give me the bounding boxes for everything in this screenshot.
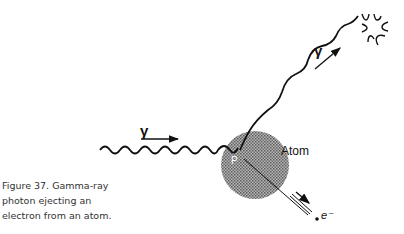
atom-label: Atom	[281, 144, 309, 158]
incoming-photon-wave	[100, 146, 238, 154]
figure-caption: Figure 37. Gamma-ray photon ejecting an …	[2, 178, 142, 223]
incoming-gamma-label: γ	[140, 122, 149, 139]
outgoing-photon-wave	[240, 16, 358, 150]
electron-dot	[315, 217, 319, 221]
caption-line: photon ejecting an	[2, 193, 142, 208]
outgoing-gamma-label: γ	[314, 42, 323, 59]
caption-line: Figure 37. Gamma-ray	[2, 178, 142, 193]
burst-icon	[362, 14, 388, 45]
electron-label: e⁻	[321, 209, 334, 221]
caption-line: electron from an atom.	[2, 208, 142, 223]
electron-direction-arrow	[296, 192, 309, 203]
interaction-point-label: P	[231, 155, 238, 166]
